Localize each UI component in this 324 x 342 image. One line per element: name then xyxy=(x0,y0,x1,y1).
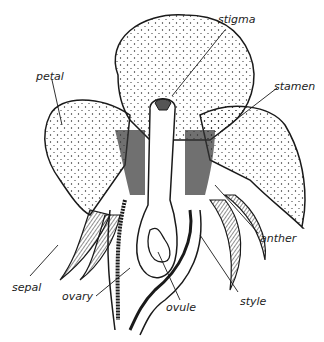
label-stamen: stamen xyxy=(274,81,315,92)
label-ovary: ovary xyxy=(62,291,93,302)
label-petal: petal xyxy=(36,71,64,82)
label-sepal: sepal xyxy=(12,282,41,293)
label-style: style xyxy=(240,296,266,307)
right-sepal xyxy=(210,200,241,290)
right-stamen-cluster xyxy=(185,130,215,195)
label-anther: anther xyxy=(260,233,296,244)
label-stigma: stigma xyxy=(218,14,256,25)
right-petal xyxy=(200,106,305,228)
label-ovule: ovule xyxy=(166,302,196,313)
flower-diagram xyxy=(0,0,324,342)
left-petal xyxy=(45,100,130,215)
